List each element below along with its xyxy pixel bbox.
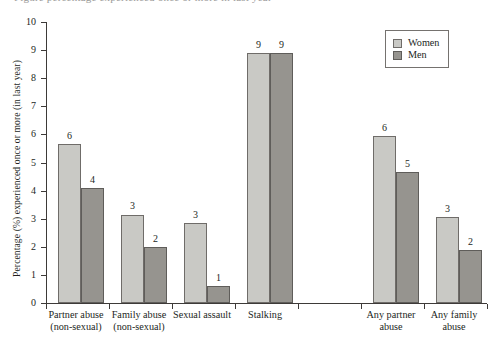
y-axis-tick xyxy=(41,163,46,164)
bar-value-label: 2 xyxy=(138,234,173,244)
category-label-line2: (non-sexual) xyxy=(94,321,184,333)
y-axis-tick-label: 6 xyxy=(6,129,36,139)
bar-value-label: 9 xyxy=(264,40,299,50)
legend-label-men: Men xyxy=(408,50,427,60)
y-axis-tick-label: 0 xyxy=(6,298,36,308)
y-axis-tick-label: 2 xyxy=(6,242,36,252)
bar-women-6 xyxy=(436,217,459,303)
bar-women-3 xyxy=(247,53,270,303)
y-axis-tick-label: 10 xyxy=(6,17,36,27)
y-axis-tick xyxy=(41,134,46,135)
y-axis-tick xyxy=(41,247,46,248)
bar-value-label: 3 xyxy=(430,204,465,214)
cropped-caption: Figure percentage experienced once or mo… xyxy=(0,0,492,7)
bar-value-label: 6 xyxy=(52,131,87,141)
y-axis-tick-label: 3 xyxy=(6,214,36,224)
legend-swatch-women-icon xyxy=(393,39,402,48)
y-axis-tick xyxy=(41,22,46,23)
bar-women-2 xyxy=(184,223,207,303)
bar-women-0 xyxy=(58,144,81,303)
category-label-line1: Any family xyxy=(409,309,492,321)
legend-label-women: Women xyxy=(408,38,439,48)
legend-item-men: Men xyxy=(393,50,439,60)
y-axis-tick xyxy=(41,191,46,192)
bar-value-label: 1 xyxy=(201,273,236,283)
bar-value-label: 3 xyxy=(115,201,150,211)
x-axis-category-label: Any familyabuse xyxy=(409,309,492,332)
y-axis-tick-label: 1 xyxy=(6,270,36,280)
category-label-line2: abuse xyxy=(409,321,492,333)
y-axis-tick xyxy=(41,219,46,220)
bar-men-3 xyxy=(270,53,293,303)
x-axis-line xyxy=(46,303,487,304)
cropped-caption-text: Figure percentage experienced once or mo… xyxy=(14,0,272,3)
bar-value-label: 2 xyxy=(453,237,488,247)
y-axis-tick xyxy=(41,78,46,79)
y-axis-tick xyxy=(41,275,46,276)
y-axis-tick-label: 4 xyxy=(6,186,36,196)
bar-value-label: 3 xyxy=(178,210,213,220)
y-axis-tick-label: 7 xyxy=(6,101,36,111)
x-axis-category-label: Stalking xyxy=(220,309,310,321)
legend-item-women: Women xyxy=(393,38,439,48)
y-axis-tick xyxy=(41,50,46,51)
y-axis-tick-label: 5 xyxy=(6,158,36,168)
bar-men-5 xyxy=(396,172,419,303)
y-axis-tick-label: 9 xyxy=(6,45,36,55)
bar-value-label: 6 xyxy=(367,123,402,133)
chart-container: Figure percentage experienced once or mo… xyxy=(0,0,492,342)
bar-men-1 xyxy=(144,247,167,303)
bar-men-6 xyxy=(459,250,482,303)
legend-swatch-men-icon xyxy=(393,51,402,60)
y-axis-tick-label: 8 xyxy=(6,73,36,83)
bar-men-0 xyxy=(81,188,104,303)
bar-men-2 xyxy=(207,286,230,303)
category-label-line1: Stalking xyxy=(220,309,310,321)
legend: Women Men xyxy=(385,30,449,68)
bar-value-label: 5 xyxy=(390,159,425,169)
y-axis-tick xyxy=(41,106,46,107)
bar-value-label: 4 xyxy=(75,175,110,185)
y-axis-line xyxy=(46,22,47,304)
bar-women-1 xyxy=(121,215,144,304)
